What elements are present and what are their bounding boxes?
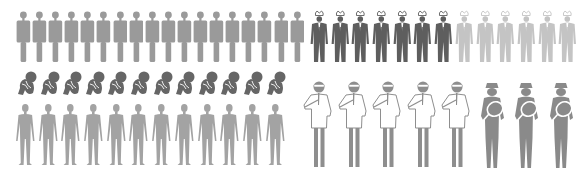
standing-person-icon xyxy=(241,11,256,63)
fetal-figure-icon xyxy=(84,70,107,98)
standing-person-icon xyxy=(16,11,31,63)
magnifying-glass-person-icon xyxy=(475,78,510,174)
anatomical-body-icon xyxy=(173,103,196,167)
fetal-figure-icon xyxy=(242,70,265,98)
anatomical-body-icon xyxy=(105,103,128,167)
anatomical-body-icon xyxy=(37,103,60,167)
crowned-suit-person-icon xyxy=(537,10,558,65)
fetal-figure-icon xyxy=(106,70,129,98)
suited-people-row xyxy=(309,10,578,65)
anatomical-body-icon xyxy=(218,103,241,167)
anatomical-body-icon xyxy=(150,103,173,167)
crowned-suit-person-icon xyxy=(309,10,330,65)
standing-person-icon xyxy=(177,11,192,63)
magnifying-glass-person-icon xyxy=(509,78,544,174)
standing-people-row xyxy=(16,11,304,63)
crowned-suit-person-icon xyxy=(350,10,371,65)
crowned-suit-person-icon xyxy=(454,10,475,65)
fetal-figure-icon xyxy=(219,70,242,98)
magnifying-glass-person-icon xyxy=(544,78,579,174)
scientists-row xyxy=(302,78,578,174)
fetal-figure-icon xyxy=(16,70,39,98)
anatomical-body-icon xyxy=(264,103,287,167)
fetal-figure-icon xyxy=(197,70,220,98)
anatomical-bodies-row xyxy=(14,103,286,167)
standing-person-icon xyxy=(145,11,160,63)
standing-person-icon xyxy=(32,11,47,63)
fetal-figure-icon xyxy=(152,70,175,98)
standing-person-icon xyxy=(225,11,240,63)
fetal-figure-icon xyxy=(129,70,152,98)
fetal-figure-icon xyxy=(265,70,288,98)
crowned-suit-person-icon xyxy=(516,10,537,65)
scientist-pipette-icon xyxy=(302,78,337,174)
scientist-pipette-icon xyxy=(337,78,372,174)
crowned-suit-person-icon xyxy=(475,10,496,65)
fetal-figures-row xyxy=(16,70,287,98)
anatomical-body-icon xyxy=(127,103,150,167)
standing-person-icon xyxy=(129,11,144,63)
standing-person-icon xyxy=(113,11,128,63)
standing-person-icon xyxy=(274,11,289,63)
crowned-suit-person-icon xyxy=(392,10,413,65)
standing-person-icon xyxy=(64,11,79,63)
fetal-figure-icon xyxy=(61,70,84,98)
anatomical-body-icon xyxy=(14,103,37,167)
anatomical-body-icon xyxy=(82,103,105,167)
scientist-pipette-icon xyxy=(371,78,406,174)
crowned-suit-person-icon xyxy=(371,10,392,65)
crowned-suit-person-icon xyxy=(412,10,433,65)
fetal-figure-icon xyxy=(39,70,62,98)
standing-person-icon xyxy=(193,11,208,63)
scientist-pipette-icon xyxy=(440,78,475,174)
crowned-suit-person-icon xyxy=(433,10,454,65)
anatomical-body-icon xyxy=(241,103,264,167)
standing-person-icon xyxy=(290,11,305,63)
scientist-pipette-icon xyxy=(406,78,441,174)
standing-person-icon xyxy=(96,11,111,63)
anatomical-body-icon xyxy=(59,103,82,167)
standing-person-icon xyxy=(161,11,176,63)
crowned-suit-person-icon xyxy=(330,10,351,65)
anatomical-body-icon xyxy=(196,103,219,167)
crowned-suit-person-icon xyxy=(557,10,578,65)
standing-person-icon xyxy=(209,11,224,63)
standing-person-icon xyxy=(48,11,63,63)
crowned-suit-person-icon xyxy=(495,10,516,65)
fetal-figure-icon xyxy=(174,70,197,98)
standing-person-icon xyxy=(80,11,95,63)
standing-person-icon xyxy=(257,11,272,63)
